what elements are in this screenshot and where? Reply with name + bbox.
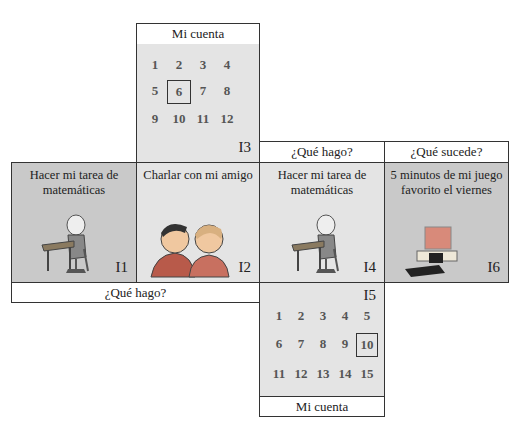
label-i4: I4 — [364, 259, 377, 276]
card-title-i6: 5 minutos de mi juego favorito el vierne… — [389, 168, 504, 198]
token-10-selected: 10 — [356, 333, 378, 357]
computer-icon — [403, 225, 465, 277]
card-i4: Hacer mi tarea de matemáticas I4 — [259, 162, 385, 283]
header-que-hago-bottom: ¿Qué hago? — [11, 282, 260, 303]
token-5: 5 — [143, 80, 167, 104]
token-3: 3 — [312, 305, 334, 327]
header-que-sucede-i6: ¿Qué sucede? — [384, 141, 509, 163]
token-7: 7 — [290, 333, 312, 357]
token-1: 1 — [143, 54, 167, 76]
friends-talking-icon — [149, 215, 233, 279]
student-at-desk-icon — [290, 213, 350, 275]
label-i5: I5 — [364, 287, 377, 304]
token-12: 12 — [290, 363, 312, 385]
token-2: 2 — [290, 305, 312, 327]
card-i1: Hacer mi tarea de matemáticas I1 — [11, 162, 137, 283]
token-2: 2 — [167, 54, 191, 76]
top-account-header: Mi cuenta — [136, 23, 260, 45]
token-7: 7 — [191, 80, 215, 104]
student-at-desk-icon — [40, 213, 100, 275]
token-10: 10 — [167, 108, 191, 130]
token-11: 11 — [268, 363, 290, 385]
token-4: 4 — [334, 305, 356, 327]
token-15: 15 — [356, 363, 378, 385]
label-i2: I2 — [239, 259, 252, 276]
token-4: 4 — [215, 54, 239, 76]
label-i3: I3 — [239, 139, 252, 156]
token-9: 9 — [143, 108, 167, 130]
token-6-selected: 6 — [167, 80, 191, 104]
card-i2: Charlar con mi amigo I2 — [136, 162, 260, 283]
card-title-i2: Charlar con mi amigo — [141, 168, 255, 183]
account-panel-i5: I5 1 2 3 4 5 6 7 8 9 10 11 12 13 14 15 — [259, 282, 385, 397]
token-9: 9 — [334, 333, 356, 357]
label-i6: I6 — [488, 259, 501, 276]
token-grid-12: 1 2 3 4 5 6 7 8 9 10 11 12 — [143, 54, 239, 130]
token-8: 8 — [312, 333, 334, 357]
header-que-hago-i4: ¿Qué hago? — [259, 141, 385, 163]
card-i6: 5 minutos de mi juego favorito el vierne… — [384, 162, 509, 283]
card-title-i1: Hacer mi tarea de matemáticas — [16, 168, 132, 198]
token-14: 14 — [334, 363, 356, 385]
label-i1: I1 — [116, 259, 129, 276]
card-title-i4: Hacer mi tarea de matemáticas — [264, 168, 380, 198]
account-panel-i3: 1 2 3 4 5 6 7 8 9 10 11 12 I3 — [136, 44, 260, 163]
token-13: 13 — [312, 363, 334, 385]
token-1: 1 — [268, 305, 290, 327]
token-11: 11 — [191, 108, 215, 130]
token-12: 12 — [215, 108, 239, 130]
token-8: 8 — [215, 80, 239, 104]
token-3: 3 — [191, 54, 215, 76]
token-6: 6 — [268, 333, 290, 357]
token-5: 5 — [356, 305, 378, 327]
token-grid-15: 1 2 3 4 5 6 7 8 9 10 11 12 13 14 15 — [268, 305, 378, 385]
bottom-account-footer: Mi cuenta — [259, 396, 385, 417]
